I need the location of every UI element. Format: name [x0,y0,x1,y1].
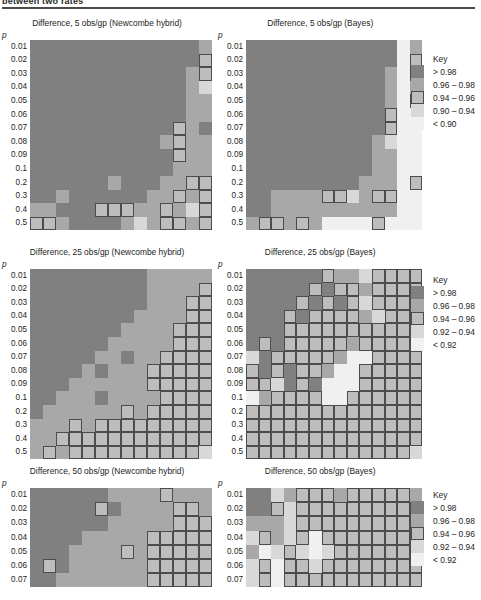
heatmap-cell [385,432,398,446]
heatmap-cell [160,149,173,163]
heatmap-cell [246,176,259,190]
heatmap-cell [186,419,199,433]
heatmap-cell [56,323,69,337]
heatmap-cell [410,446,423,460]
heatmap-cell [322,364,335,378]
heatmap-cell [56,190,69,204]
heatmap-cell [271,176,284,190]
heatmap-cell [95,405,108,419]
heatmap-cell [410,378,423,392]
heatmap-cell [372,283,385,297]
heatmap-cell [160,176,173,190]
heatmap-cell [259,54,272,68]
heatmap-cell [246,378,259,392]
heatmap-cell [309,323,322,337]
heatmap-cell [296,351,309,365]
heatmap-cell [186,94,199,108]
heatmap-cell [186,67,199,81]
heatmap-cell [30,378,43,392]
y-tick-labels: 0.010.020.030.040.050.060.07 [218,488,245,587]
heatmap-cell [30,446,43,460]
heatmap-cell [246,122,259,136]
heatmap-cell [347,559,360,573]
legend-label: 0.94 – 0.96 [433,93,475,103]
heatmap-cell [259,573,272,587]
heatmap-cell [296,391,309,405]
heatmap-cell [372,323,385,337]
heatmap-cell [410,176,423,190]
heatmap-cell [410,149,423,163]
heatmap-cell [95,149,108,163]
heatmap-cell [30,94,43,108]
heatmap-cell [372,149,385,163]
y-tick-label: 0.05 [218,94,245,108]
heatmap-cell [95,81,108,95]
heatmap-cell [82,419,95,433]
heatmap-cell [134,162,147,176]
y-tick-labels: 0.010.020.030.040.050.060.070.080.090.10… [218,269,245,459]
heatmap-cell [82,516,95,530]
y-tick-label: 0.4 [2,432,29,446]
heatmap-cell [108,94,121,108]
heatmap-cell [173,502,186,516]
heatmap-cell [30,310,43,324]
heatmap-cell [30,190,43,204]
heatmap-cell [173,364,186,378]
heatmap-cell [309,545,322,559]
heatmap-cell [95,135,108,149]
heatmap-cell [372,378,385,392]
heatmap-grid [246,40,422,230]
heatmap-cell [121,488,134,502]
heatmap-cell [134,323,147,337]
heatmap-cell [186,269,199,283]
heatmap-cell [30,176,43,190]
heatmap-cell [322,516,335,530]
y-axis-label: p [2,259,7,269]
heatmap-cell [82,531,95,545]
y-tick-labels: 0.010.020.030.040.050.060.070.080.090.10… [218,40,245,230]
heatmap-cell [259,190,272,204]
legend-swatch [411,514,424,527]
legend-label: 0.94 – 0.96 [433,529,475,539]
heatmap-cell [347,419,360,433]
heatmap-cell [334,559,347,573]
heatmap-cell [160,162,173,176]
heatmap-cell [199,149,212,163]
heatmap-cell [284,108,297,122]
heatmap-cell [397,337,410,351]
heatmap-cell [410,40,423,54]
heatmap-cell [199,108,212,122]
heatmap-cell [95,364,108,378]
heatmap-cell [334,217,347,231]
heatmap-cell [284,81,297,95]
heatmap-cell [410,351,423,365]
heatmap-cell [347,122,360,136]
heatmap-cell [30,323,43,337]
heatmap-cell [322,283,335,297]
heatmap-cell [385,446,398,460]
heatmap-grid [30,269,212,459]
y-tick-label: 0.01 [218,488,245,502]
heatmap-cell [199,545,212,559]
heatmap-cell [121,432,134,446]
legend-label: < 0.92 [433,340,457,350]
heatmap-cell [30,67,43,81]
heatmap-cell [186,149,199,163]
heatmap-cell [259,149,272,163]
heatmap-cell [186,135,199,149]
heatmap-cell [296,54,309,68]
legend-row: 0.94 – 0.96 [411,312,475,325]
y-tick-label: 0.02 [218,54,245,68]
heatmap-cell [108,310,121,324]
heatmap-cell [95,516,108,530]
heatmap-cell [160,432,173,446]
heatmap-cell [284,573,297,587]
heatmap-cell [296,516,309,530]
heatmap-cell [397,545,410,559]
heatmap-cell [173,176,186,190]
heatmap-cell [134,378,147,392]
legend-swatch [411,91,424,104]
legend-swatch [411,78,424,91]
heatmap-cell [296,378,309,392]
heatmap-cell [186,40,199,54]
